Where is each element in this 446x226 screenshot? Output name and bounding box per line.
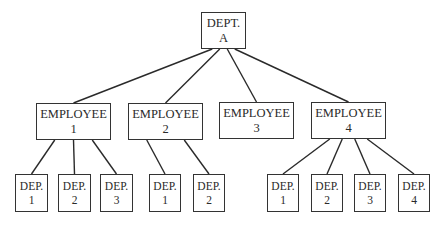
node-label-line2: 2 — [72, 193, 78, 207]
node-label-line1: DEP. — [197, 179, 220, 193]
connector-employee-4-to-e4-dep-3 — [355, 139, 370, 174]
node-label-line1: DEP. — [402, 179, 425, 193]
node-label-line2: 2 — [206, 193, 212, 207]
node-label-line2: 3 — [367, 193, 373, 207]
department-a-node: DEPT. A — [201, 12, 246, 49]
employee-1-dependent-3-node: DEP. 3 — [100, 174, 133, 212]
employee-4-dependent-2-node: DEP. 2 — [311, 174, 343, 212]
node-label-line1: DEP. — [105, 179, 128, 193]
connector-employee-1-to-e1-dep-2 — [74, 140, 75, 174]
node-label-line1: DEP. — [20, 179, 43, 193]
connector-employee-2-to-e2-dep-1 — [147, 140, 165, 174]
employee-4-node: EMPLOYEE 4 — [311, 102, 386, 139]
node-label-line1: DEP. — [315, 179, 338, 193]
node-label-line1: DEP. — [63, 179, 86, 193]
connector-employee-1-to-e1-dep-3 — [92, 140, 116, 174]
connector-dept-a-to-employee-1 — [74, 49, 213, 103]
connector-employee-4-to-e4-dep-2 — [327, 139, 342, 174]
employee-1-node: EMPLOYEE 1 — [36, 103, 111, 140]
node-label-line2: 1 — [29, 193, 35, 207]
node-label-line2: 3 — [253, 121, 259, 136]
employee-1-dependent-1-node: DEP. 1 — [15, 174, 48, 212]
employee-2-node: EMPLOYEE 2 — [128, 103, 203, 140]
node-label-line1: EMPLOYEE — [40, 107, 107, 122]
node-label-line1: EMPLOYEE — [132, 107, 199, 122]
node-label-line2: A — [219, 31, 228, 46]
employee-1-dependent-2-node: DEP. 2 — [58, 174, 91, 212]
connector-employee-1-to-e1-dep-1 — [32, 140, 55, 174]
node-label-line1: DEP. — [153, 179, 176, 193]
employee-4-dependent-3-node: DEP. 3 — [354, 174, 386, 212]
connector-employee-4-to-e4-dep-1 — [283, 139, 330, 174]
node-label-line2: 2 — [162, 122, 168, 137]
node-label-line2: 4 — [345, 121, 351, 136]
node-label-line2: 3 — [114, 193, 120, 207]
employee-2-dependent-2-node: DEP. 2 — [193, 174, 225, 212]
node-label-line2: 1 — [280, 193, 286, 207]
node-label-line2: 4 — [411, 193, 417, 207]
employee-4-dependent-1-node: DEP. 1 — [267, 174, 299, 212]
employee-4-dependent-4-node: DEP. 4 — [398, 174, 430, 212]
node-label-line1: DEP. — [271, 179, 294, 193]
employee-2-dependent-1-node: DEP. 1 — [149, 174, 181, 212]
node-label-line2: 1 — [70, 122, 76, 137]
node-label-line2: 1 — [162, 193, 168, 207]
node-label-line1: EMPLOYEE — [223, 106, 290, 121]
node-label-line1: DEPT. — [207, 16, 240, 31]
node-label-line1: DEP. — [358, 179, 381, 193]
employee-3-node: EMPLOYEE 3 — [219, 102, 294, 139]
connector-employee-2-to-e2-dep-2 — [184, 140, 209, 174]
connector-employee-4-to-e4-dep-4 — [367, 139, 414, 174]
node-label-line2: 2 — [324, 193, 330, 207]
node-label-line1: EMPLOYEE — [315, 106, 382, 121]
